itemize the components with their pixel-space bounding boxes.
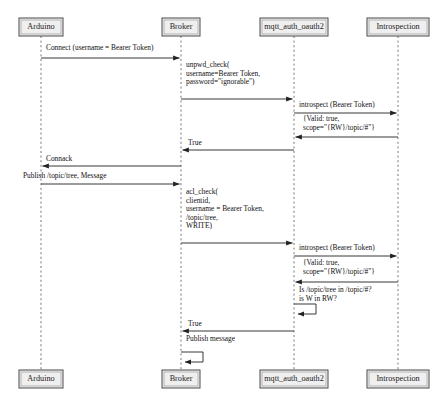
self-loop-arrow <box>181 352 203 362</box>
message-m7[interactable]: Publish /topic/tree, Message <box>23 171 180 184</box>
message-m10[interactable]: {Valid: true,scope="{RW}/topic/#"} <box>296 258 399 282</box>
message-label: is W in RW? <box>299 294 337 303</box>
actor-box-mqtt_auth-top[interactable]: mqtt_auth_oauth2 <box>260 18 328 36</box>
message-m8[interactable]: acl_check( clientid, username = Bearer T… <box>181 187 293 243</box>
actor-box-introspection-bottom[interactable]: Introspection <box>367 370 429 388</box>
message-label: Publish /topic/tree, Message <box>23 171 107 180</box>
message-label: introspect (Bearer Token) <box>299 243 375 252</box>
message-m9[interactable]: introspect (Bearer Token) <box>294 243 397 256</box>
actor-box-introspection-top[interactable]: Introspection <box>367 18 429 36</box>
message-m6[interactable]: Connack <box>43 154 182 166</box>
actor-box-broker-bottom[interactable]: Broker <box>162 370 200 388</box>
self-loop-arrow <box>294 304 316 314</box>
message-m12[interactable]: True <box>183 319 295 331</box>
message-label: Publish message <box>186 334 236 343</box>
message-m3[interactable]: introspect (Bearer Token) <box>294 100 397 113</box>
message-label: scope="{RW}/topic/#"} <box>303 267 375 276</box>
message-label: password="ignorable") <box>186 77 255 86</box>
actor-label-introspection: Introspection <box>376 374 419 383</box>
message-m11[interactable]: Is /topic/tree in /topic/#?is W in RW? <box>294 285 371 314</box>
actor-box-arduino-bottom[interactable]: Arduino <box>19 370 63 388</box>
message-m13[interactable]: Publish message <box>181 334 236 362</box>
actor-box-broker-top[interactable]: Broker <box>162 18 200 36</box>
actor-label-broker: Broker <box>170 374 193 383</box>
message-m2[interactable]: unpwd_check(username=Bearer Token,passwo… <box>181 60 293 99</box>
message-label: True <box>188 319 202 328</box>
messages-layer: Connect (username = Bearer Token)unpwd_c… <box>23 43 398 362</box>
actor-label-mqtt_auth: mqtt_auth_oauth2 <box>264 22 324 31</box>
actor-label-introspection: Introspection <box>376 22 419 31</box>
actor-box-arduino-top[interactable]: Arduino <box>19 18 63 36</box>
message-label: WRITE) <box>186 221 212 230</box>
message-label: Connect (username = Bearer Token) <box>46 43 154 52</box>
actor-box-mqtt_auth-bottom[interactable]: mqtt_auth_oauth2 <box>260 370 328 388</box>
actor-label-broker: Broker <box>170 22 193 31</box>
message-m5[interactable]: True <box>183 138 295 150</box>
actor-label-arduino: Arduino <box>27 374 54 383</box>
message-label: scope="{RW}/topic/#"} <box>303 123 375 132</box>
message-m4[interactable]: {Valid: true,scope="{RW}/topic/#"} <box>296 114 399 137</box>
message-label: Connack <box>46 154 73 163</box>
message-m1[interactable]: Connect (username = Bearer Token) <box>41 43 180 58</box>
actor-label-arduino: Arduino <box>27 22 54 31</box>
actor-label-mqtt_auth: mqtt_auth_oauth2 <box>264 374 324 383</box>
sequence-diagram: Connect (username = Bearer Token)unpwd_c… <box>0 0 441 405</box>
message-label: introspect (Bearer Token) <box>299 100 375 109</box>
message-label: True <box>188 138 202 147</box>
